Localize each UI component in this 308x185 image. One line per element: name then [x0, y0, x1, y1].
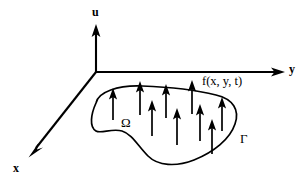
diagram-svg	[0, 0, 308, 185]
load-function-label: f(x, y, t)	[202, 75, 242, 88]
figure-canvas: u y x Ω Γ f(x, y, t)	[0, 0, 308, 185]
gamma-boundary-label: Γ	[240, 132, 248, 145]
x-axis-line	[36, 72, 96, 148]
u-axis-label: u	[92, 6, 99, 18]
x-axis-arrowhead	[29, 143, 44, 158]
omega-domain-label: Ω	[121, 116, 131, 129]
x-axis-label: x	[13, 162, 19, 174]
y-axis-label: y	[289, 63, 295, 75]
